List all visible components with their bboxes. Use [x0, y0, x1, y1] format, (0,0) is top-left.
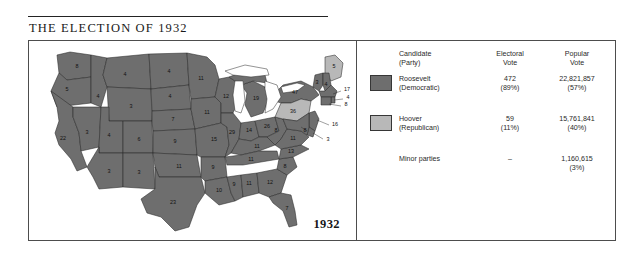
legend-header-electoral-sub: Vote [479, 59, 541, 68]
svg-text:5: 5 [66, 86, 69, 92]
svg-text:3: 3 [327, 136, 330, 142]
legend-header-electoral-main: Electoral [496, 50, 524, 58]
svg-text:4: 4 [347, 94, 350, 100]
svg-text:11: 11 [198, 75, 204, 81]
svg-text:4: 4 [325, 81, 328, 87]
legend-candidate-roosevelt-name: Roosevelt [399, 75, 431, 83]
svg-text:7: 7 [286, 205, 289, 211]
legend-popular-minor-value: 1,160,615 [561, 155, 593, 163]
svg-text:17: 17 [344, 86, 350, 92]
legend-header-popular-main: Popular [565, 50, 589, 58]
svg-text:4: 4 [97, 93, 100, 99]
svg-text:6: 6 [138, 136, 141, 142]
svg-text:4: 4 [168, 68, 171, 74]
state-FL [269, 193, 297, 227]
svg-text:3: 3 [316, 79, 319, 85]
legend-header-candidate-main: Candidate [399, 50, 431, 58]
svg-text:9: 9 [212, 164, 215, 170]
svg-text:19: 19 [253, 95, 259, 101]
legend-header-popular-sub: Vote [542, 59, 612, 68]
svg-text:23: 23 [170, 199, 176, 205]
svg-text:8: 8 [284, 163, 287, 169]
legend-electoral-roosevelt-value: 472 [504, 75, 516, 83]
svg-text:11: 11 [204, 109, 210, 115]
legend-popular-minor: 1,160,615 (3%) [542, 155, 612, 174]
svg-text:29: 29 [229, 129, 235, 135]
state-AZ [87, 147, 123, 189]
legend-electoral-hoover-value: 59 [506, 115, 514, 123]
map-states [51, 52, 343, 231]
svg-text:11: 11 [254, 143, 260, 149]
svg-text:11: 11 [246, 180, 252, 186]
svg-text:13: 13 [288, 148, 294, 154]
svg-text:3: 3 [138, 169, 141, 175]
legend-header-row: Candidate (Party) Electoral Vote Popular… [357, 41, 616, 67]
svg-text:3: 3 [108, 168, 111, 174]
legend-electoral-roosevelt: 472 (89%) [479, 75, 541, 94]
svg-text:9: 9 [233, 181, 236, 187]
page-title: THE ELECTION OF 1932 [29, 21, 188, 36]
title-rule [28, 16, 328, 17]
svg-text:9: 9 [174, 138, 177, 144]
svg-text:10: 10 [216, 187, 222, 193]
svg-text:8: 8 [275, 127, 278, 133]
svg-text:14: 14 [246, 127, 252, 133]
legend-header-popular: Popular Vote [542, 50, 612, 69]
svg-text:11: 11 [248, 156, 254, 162]
legend-swatch-hoover [370, 115, 392, 131]
svg-text:16: 16 [332, 121, 338, 127]
legend-electoral-minor-value: – [508, 155, 512, 163]
svg-text:4: 4 [169, 93, 172, 99]
lake-michigan [233, 81, 245, 113]
state-CT [321, 97, 331, 105]
legend-popular-hoover-pct: (40%) [542, 124, 612, 133]
legend-candidate-minor-name: Minor parties [399, 155, 440, 163]
legend-swatch-roosevelt [370, 75, 392, 91]
legend-electoral-minor: – [479, 155, 541, 164]
svg-text:11: 11 [290, 135, 296, 141]
svg-text:36: 36 [290, 108, 296, 114]
election-figure: THE ELECTION OF 1932 [0, 0, 637, 255]
legend-popular-hoover: 15,761,841 (40%) [542, 115, 612, 134]
svg-text:12: 12 [267, 179, 273, 185]
svg-text:3: 3 [86, 129, 89, 135]
svg-text:47: 47 [292, 89, 298, 95]
svg-text:5: 5 [333, 63, 336, 69]
svg-text:22: 22 [60, 135, 66, 141]
legend-header-electoral: Electoral Vote [479, 50, 541, 69]
legend-electoral-roosevelt-pct: (89%) [479, 84, 541, 93]
legend-candidate-hoover-name: Hoover [399, 115, 422, 123]
election-legend: Candidate (Party) Electoral Vote Popular… [357, 41, 616, 240]
lake-superior [225, 65, 269, 77]
year-label: 1932 [313, 217, 340, 232]
svg-text:8: 8 [345, 101, 348, 107]
svg-text:12: 12 [223, 93, 229, 99]
legend-row-hoover: Hoover (Republican) 59 (11%) 15,761,841 … [357, 114, 616, 148]
svg-text:8: 8 [304, 127, 307, 133]
svg-text:7: 7 [172, 116, 175, 122]
legend-popular-roosevelt: 22,821,857 (57%) [542, 75, 612, 94]
legend-popular-hoover-value: 15,761,841 [559, 115, 595, 123]
legend-electoral-hoover-pct: (11%) [479, 124, 541, 133]
legend-popular-roosevelt-value: 22,821,857 [559, 75, 595, 83]
legend-popular-minor-pct: (3%) [542, 164, 612, 173]
svg-text:8: 8 [76, 63, 79, 69]
legend-electoral-hoover: 59 (11%) [479, 115, 541, 134]
svg-text:4: 4 [108, 132, 111, 138]
legend-row-roosevelt: Roosevelt (Democratic) 472 (89%) 22,821,… [357, 74, 616, 108]
legend-popular-roosevelt-pct: (57%) [542, 84, 612, 93]
state-MT [103, 54, 151, 89]
svg-text:15: 15 [211, 136, 217, 142]
svg-text:4: 4 [124, 71, 127, 77]
us-electoral-map: 8 5 22 4 3 4 3 4 6 3 3 4 4 7 9 11 23 11 … [29, 41, 356, 240]
svg-text:26: 26 [264, 123, 270, 129]
legend-row-minor-parties: Minor parties – 1,160,615 (3%) [357, 154, 616, 188]
svg-text:11: 11 [176, 163, 182, 169]
svg-text:3: 3 [130, 103, 133, 109]
